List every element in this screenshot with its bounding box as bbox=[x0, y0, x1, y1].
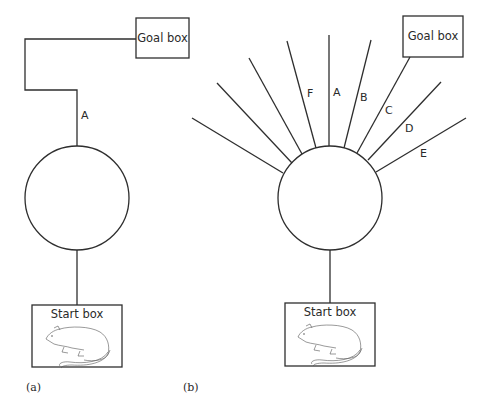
arm-e bbox=[376, 118, 466, 172]
arm-g bbox=[249, 58, 302, 154]
arm-d-label: D bbox=[405, 122, 413, 135]
central-chamber-b bbox=[278, 146, 382, 250]
arm-h bbox=[217, 83, 292, 163]
panel-b: F A B C D E Goal box Start box (b) bbox=[183, 16, 466, 394]
arm-a-label: A bbox=[333, 86, 341, 99]
arm-d bbox=[368, 82, 441, 160]
maze-diagram: Goal box A Start box (a) F A bbox=[0, 0, 489, 414]
arm-c-label: C bbox=[385, 104, 393, 117]
arm-i bbox=[192, 118, 283, 173]
panel-a-label: (a) bbox=[26, 381, 41, 394]
path-arm-a bbox=[25, 39, 136, 146]
panel-b-label: (b) bbox=[183, 381, 199, 394]
start-box-a-label: Start box bbox=[51, 307, 104, 321]
start-box-b-label: Start box bbox=[304, 305, 357, 319]
goal-box-b-label: Goal box bbox=[408, 29, 459, 43]
arm-f-label: F bbox=[307, 87, 313, 100]
arm-e-label: E bbox=[420, 147, 427, 160]
rat-icon bbox=[298, 324, 362, 366]
panel-a: Goal box A Start box (a) bbox=[25, 18, 189, 394]
arm-a-label: A bbox=[81, 109, 89, 122]
arm-b-label: B bbox=[360, 91, 368, 104]
arm-c bbox=[357, 57, 410, 153]
goal-box-a-label: Goal box bbox=[137, 31, 188, 45]
rat-icon bbox=[46, 326, 110, 368]
central-chamber-a bbox=[25, 146, 129, 250]
